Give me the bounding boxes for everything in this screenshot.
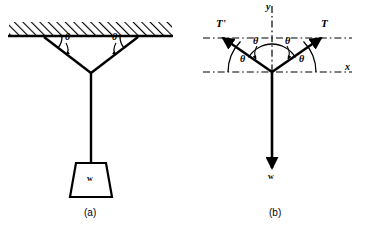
angle-leader-upper-right-b	[287, 46, 289, 59]
panel-b-group	[203, 6, 352, 168]
caption-a: (a)	[84, 207, 96, 218]
physics-figure	[0, 0, 368, 228]
angle-label-right-a: θ	[112, 32, 117, 42]
cable-right	[91, 37, 138, 73]
angle-label-upper-left-b: θ	[253, 36, 258, 46]
vector-t	[272, 38, 321, 72]
angle-arc-upper-right-b	[272, 44, 296, 58]
angle-arc-left-a	[58, 37, 62, 49]
vector-label-w: w	[268, 173, 274, 181]
vector-label-t: T	[321, 18, 328, 29]
vector-label-t-prime: T'	[216, 18, 226, 29]
angle-arc-right-a	[120, 37, 124, 49]
panel-a-group	[8, 22, 173, 197]
angle-label-upper-right-b: θ	[285, 36, 290, 46]
caption-b: (b)	[269, 207, 281, 218]
cable-left	[44, 37, 91, 73]
angle-label-left-a: θ	[65, 32, 70, 42]
axis-label-x: x	[345, 62, 350, 72]
angle-leader-upper-left-b	[255, 46, 257, 59]
vector-t-prime	[223, 38, 272, 72]
angle-label-lower-right-b: θ	[299, 54, 304, 64]
ceiling-hatch	[9, 22, 172, 35]
angle-label-lower-left-b: θ	[240, 54, 245, 64]
angle-arc-upper-left-b	[249, 44, 273, 58]
axis-label-y: y	[266, 2, 270, 12]
weight-block-label: w	[87, 175, 93, 183]
